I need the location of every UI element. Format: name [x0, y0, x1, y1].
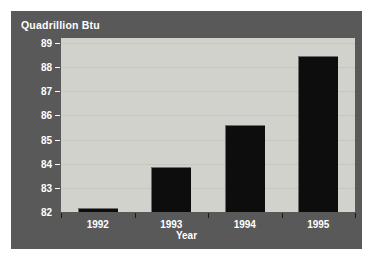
bar — [298, 56, 338, 212]
y-axis-tick-label: 89 — [30, 37, 52, 48]
bars-layer — [61, 38, 355, 212]
x-axis-tick-label: 1992 — [87, 219, 109, 230]
chart-figure: Quadrillion Btu 8283848586878889 1992199… — [11, 11, 362, 249]
x-axis-tick-mark — [135, 213, 136, 218]
bar — [151, 167, 191, 212]
y-axis-tick-mark — [55, 43, 60, 44]
x-axis-tick-mark — [61, 213, 62, 218]
bar — [78, 208, 118, 212]
x-axis-tick-mark — [282, 213, 283, 218]
x-axis-tick-label: 1995 — [307, 219, 329, 230]
y-axis-tick-label: 85 — [30, 134, 52, 145]
chart-title: Quadrillion Btu — [21, 19, 100, 31]
y-axis-tick-mark — [55, 164, 60, 165]
y-axis-tick-mark — [55, 140, 60, 141]
x-axis-title: Year — [11, 230, 362, 241]
plot-area — [61, 38, 355, 212]
x-axis-tick-label: 1994 — [234, 219, 256, 230]
y-axis-tick-mark — [55, 67, 60, 68]
y-axis-tick-label: 83 — [30, 182, 52, 193]
y-axis-tick-label: 86 — [30, 110, 52, 121]
y-axis-tick-label: 82 — [30, 207, 52, 218]
y-axis-tick-label: 84 — [30, 158, 52, 169]
y-axis-tick-label: 87 — [30, 86, 52, 97]
y-axis-tick-label: 88 — [30, 62, 52, 73]
y-axis-tick-mark — [55, 115, 60, 116]
x-axis-tick-mark — [208, 213, 209, 218]
x-axis-tick-label: 1993 — [160, 219, 182, 230]
y-axis-tick-mark — [55, 188, 60, 189]
bar — [225, 125, 265, 212]
x-axis-tick-mark — [355, 213, 356, 218]
y-axis-tick-mark — [55, 91, 60, 92]
